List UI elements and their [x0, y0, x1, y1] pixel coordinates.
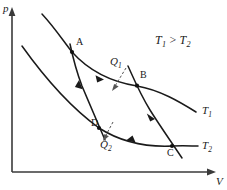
isotherm-cold-subscript: 2 — [208, 145, 212, 154]
pv-diagram-figure: p V A B C D Q1 Q2 T1 T2 T1>T2 — [0, 0, 227, 190]
isotherm-cold-label: T2 — [202, 140, 212, 154]
relation-right-subscript: 2 — [186, 40, 190, 49]
x-axis-label: V — [216, 176, 223, 187]
heat-q1-symbol: Q — [110, 55, 118, 67]
heat-q2-subscript: 2 — [108, 144, 112, 153]
heat-q1-label: Q1 — [110, 56, 122, 70]
state-point-label-b: B — [140, 70, 147, 80]
heat-q2-symbol: Q — [100, 138, 108, 150]
state-point-b-marker — [135, 84, 139, 88]
state-point-label-a: A — [76, 37, 83, 47]
diagram-canvas — [0, 0, 227, 190]
heat-q1-subscript: 1 — [118, 61, 122, 70]
x-axis-arrowhead — [207, 169, 216, 176]
y-axis-arrowhead — [9, 7, 16, 16]
state-point-a-marker — [70, 50, 74, 54]
process-arrow-a-to-b — [96, 75, 105, 82]
heat-q1-arrowhead — [112, 84, 119, 91]
state-point-label-d: D — [91, 118, 98, 128]
adiabat-bc-group — [128, 66, 182, 158]
heat-q2-label: Q2 — [100, 139, 112, 153]
adiabat-bc-curve — [128, 66, 182, 158]
relation-operator: > — [166, 33, 179, 47]
isotherm-hot-label: T1 — [202, 105, 212, 119]
relation-left-symbol: T — [155, 33, 162, 47]
y-axis-label: p — [3, 3, 9, 14]
adiabat-da-group — [70, 44, 105, 140]
isotherm-hot-subscript: 1 — [208, 110, 212, 119]
temperature-relation-label: T1>T2 — [155, 34, 191, 50]
adiabat-da-curve — [70, 44, 105, 140]
state-point-label-c: C — [167, 148, 174, 158]
